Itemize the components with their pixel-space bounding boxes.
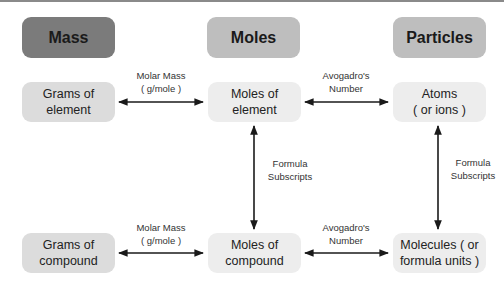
label-subscripts-left: Formula Subscripts <box>260 157 320 183</box>
label-avogadro-bottom: Avogadro's Number <box>311 221 381 247</box>
arrows-layer <box>0 0 504 289</box>
label-subscripts-right: Formula Subscripts <box>443 156 503 182</box>
label-molar-mass-top: Molar Mass ( g/mole ) <box>126 69 196 95</box>
label-molar-mass-bottom: Molar Mass ( g/mole ) <box>126 221 196 247</box>
label-avogadro-top: Avogadro's Number <box>311 69 381 95</box>
